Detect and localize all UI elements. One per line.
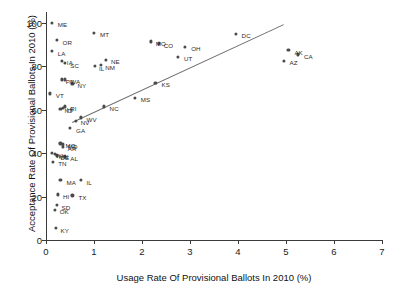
x-tick-label: 1 bbox=[79, 246, 109, 257]
data-point bbox=[71, 194, 74, 197]
data-point bbox=[56, 193, 59, 196]
data-point-label: TX bbox=[78, 193, 86, 200]
data-point-label: NJ bbox=[64, 107, 72, 114]
data-point-label: IL bbox=[87, 178, 92, 185]
x-axis-title: Usage Rate Of Provisional Ballots In 201… bbox=[46, 272, 382, 283]
data-point-label: CO bbox=[164, 41, 173, 48]
data-point-label: NC bbox=[110, 104, 119, 111]
data-point bbox=[48, 92, 51, 95]
data-point bbox=[93, 65, 96, 68]
x-tick bbox=[334, 240, 335, 244]
x-tick bbox=[142, 240, 143, 244]
x-tick bbox=[382, 240, 383, 244]
x-tick-label: 7 bbox=[367, 246, 397, 257]
x-tick-label: 3 bbox=[175, 246, 205, 257]
data-point bbox=[55, 204, 58, 207]
data-point bbox=[92, 31, 95, 34]
y-axis-line bbox=[46, 12, 47, 240]
x-tick bbox=[238, 240, 239, 244]
data-point-label: HI bbox=[63, 192, 69, 199]
data-point-label: NV bbox=[81, 119, 90, 126]
data-point-label: NY bbox=[77, 82, 86, 89]
data-point-label: IL bbox=[99, 64, 104, 71]
x-axis-line bbox=[46, 240, 382, 241]
data-point bbox=[149, 40, 152, 43]
plot-area: 020406080100 01234567 MEMTORMOCOOHLADCAK… bbox=[46, 12, 382, 240]
y-tick bbox=[42, 66, 46, 67]
data-point-label: ME bbox=[58, 21, 67, 28]
data-point-label: PA bbox=[66, 77, 74, 84]
x-tick-label: 4 bbox=[223, 246, 253, 257]
data-point-label: VT bbox=[56, 91, 64, 98]
scatter-chart: 020406080100 01234567 MEMTORMOCOOHLADCAK… bbox=[0, 0, 402, 298]
y-tick bbox=[42, 197, 46, 198]
y-tick bbox=[42, 110, 46, 111]
x-tick-label: 5 bbox=[271, 246, 301, 257]
data-point-label: SC bbox=[70, 61, 79, 68]
data-point bbox=[53, 208, 56, 211]
data-point-label: KS bbox=[161, 81, 169, 88]
data-point-label: UT bbox=[184, 55, 192, 62]
data-point-label: NM bbox=[105, 63, 115, 70]
data-point bbox=[59, 179, 62, 182]
data-point-label: GA bbox=[76, 126, 85, 133]
data-point-label: OR bbox=[63, 38, 72, 45]
data-point bbox=[79, 179, 82, 182]
data-point bbox=[60, 78, 63, 81]
data-point-label: OK bbox=[60, 208, 69, 215]
data-point bbox=[54, 226, 57, 229]
data-point bbox=[50, 21, 53, 24]
data-point bbox=[104, 58, 107, 61]
data-point-label: MT bbox=[100, 31, 109, 38]
x-tick bbox=[190, 240, 191, 244]
y-axis-title: Acceptance Rate Of Provisional Ballots I… bbox=[26, 0, 37, 259]
x-tick bbox=[46, 240, 47, 244]
data-point-label: LA bbox=[58, 49, 66, 56]
x-tick bbox=[94, 240, 95, 244]
y-tick bbox=[42, 153, 46, 154]
data-point bbox=[61, 145, 64, 148]
data-point-label: AZ bbox=[290, 59, 298, 66]
data-point bbox=[50, 49, 53, 52]
data-point-label: TN bbox=[58, 160, 66, 167]
data-point-label: OH bbox=[191, 45, 200, 52]
x-tick bbox=[286, 240, 287, 244]
data-point-label: CA bbox=[304, 52, 313, 59]
x-tick-label: 2 bbox=[127, 246, 157, 257]
data-point-label: MS bbox=[141, 96, 150, 103]
data-point bbox=[287, 48, 290, 51]
data-point bbox=[68, 127, 71, 130]
data-point-label: KY bbox=[61, 226, 69, 233]
data-point bbox=[282, 59, 285, 62]
trendline bbox=[72, 24, 284, 123]
data-point bbox=[133, 96, 136, 99]
data-point bbox=[184, 45, 187, 48]
data-point bbox=[234, 32, 237, 35]
data-point bbox=[55, 39, 58, 42]
data-point bbox=[59, 107, 62, 110]
data-point bbox=[176, 55, 179, 58]
data-point bbox=[52, 160, 55, 163]
data-point-label: DC bbox=[242, 32, 251, 39]
data-point-label: AL bbox=[70, 154, 78, 161]
y-tick bbox=[42, 23, 46, 24]
data-point-label: MA bbox=[66, 178, 75, 185]
data-point-label: AR bbox=[68, 145, 77, 152]
data-point-label: AK bbox=[294, 48, 302, 55]
data-point bbox=[74, 119, 77, 122]
x-tick-label: 6 bbox=[319, 246, 349, 257]
